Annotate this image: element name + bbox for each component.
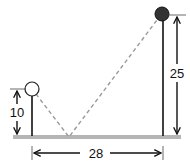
- distance-label: 28: [89, 146, 103, 161]
- short-height-label: 10: [10, 105, 24, 120]
- tall-pole-ball: [155, 7, 169, 21]
- poles-diagram: 10 25 28: [0, 0, 190, 167]
- tall-height-label: 25: [170, 66, 184, 81]
- ground-line: [13, 135, 181, 139]
- dashed-path: [36, 20, 157, 137]
- short-pole-ball: [25, 82, 39, 96]
